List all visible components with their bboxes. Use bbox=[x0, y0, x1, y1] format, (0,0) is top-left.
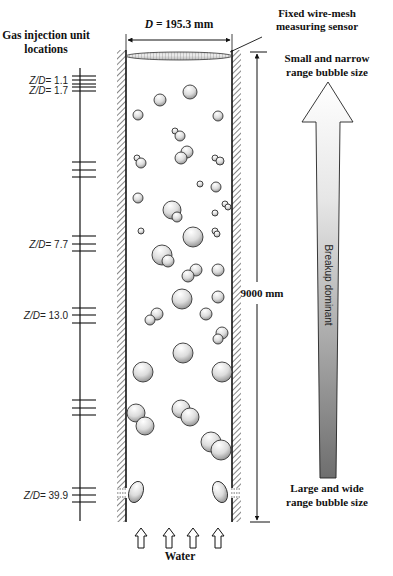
water-arrow-icon bbox=[187, 528, 199, 548]
bubble bbox=[212, 264, 224, 276]
top-label-line2: range bubble size bbox=[286, 66, 368, 78]
bubble bbox=[172, 289, 192, 309]
right-wall bbox=[232, 50, 241, 522]
water-label: Water bbox=[165, 550, 196, 562]
bubble bbox=[173, 343, 193, 363]
injection-ticks bbox=[72, 76, 96, 502]
sensor-callout-line bbox=[230, 37, 262, 52]
height-label: 9000 mm bbox=[240, 287, 283, 299]
zd-labels: Z/D= 1.1Z/D= 1.7Z/D= 7.7Z/D= 13.0Z/D= 39… bbox=[23, 75, 69, 501]
injected-bubble bbox=[126, 479, 147, 504]
water-arrow-icon bbox=[212, 528, 224, 548]
bubble bbox=[136, 417, 154, 435]
bubble bbox=[213, 111, 223, 121]
axis-title-line1: Gas injection unit bbox=[2, 29, 90, 42]
bubble bbox=[197, 181, 203, 187]
water-arrow-icon bbox=[163, 528, 175, 548]
bubble bbox=[182, 270, 194, 282]
bubble bbox=[145, 315, 155, 325]
bubble bbox=[200, 308, 212, 320]
diameter-label: D = 195.3 mm bbox=[144, 18, 214, 30]
right-injector-port bbox=[231, 488, 242, 498]
injector-bubbles bbox=[126, 479, 231, 504]
bubble bbox=[183, 85, 197, 99]
bubble bbox=[212, 210, 218, 216]
bubble bbox=[212, 291, 224, 303]
gas-injection-axis: Gas injection unit locations Z/D= 1.1Z/D… bbox=[2, 29, 96, 521]
bubble bbox=[175, 152, 187, 164]
diagram-canvas: Gas injection unit locations Z/D= 1.1Z/D… bbox=[0, 0, 393, 576]
bubble bbox=[154, 94, 166, 106]
zd-label: Z/D= 1.7 bbox=[28, 85, 68, 96]
sensor-label-line1: Fixed wire-mesh bbox=[278, 7, 356, 19]
bubble bbox=[136, 158, 146, 168]
zd-label: Z/D= 7.7 bbox=[28, 239, 68, 250]
bubble bbox=[175, 131, 185, 141]
sensor-label-line2: measuring sensor bbox=[276, 20, 358, 32]
left-injector-port bbox=[116, 488, 127, 498]
bubble bbox=[133, 110, 143, 120]
bubble bbox=[172, 212, 182, 222]
water-inflow-arrows bbox=[135, 528, 224, 548]
water-arrow-icon bbox=[135, 528, 147, 548]
axis-title-line2: locations bbox=[24, 43, 68, 55]
height-dimension: 9000 mm bbox=[240, 52, 283, 522]
bubble bbox=[212, 362, 232, 382]
bubble bbox=[133, 362, 153, 382]
bottom-label-line2: range bubble size bbox=[286, 496, 368, 508]
breakup-trend-arrow: Small and narrow range bubble size Break… bbox=[285, 52, 370, 508]
bubble bbox=[211, 440, 231, 460]
bubble bbox=[211, 182, 221, 192]
bubble bbox=[216, 157, 224, 165]
bubble bbox=[181, 408, 199, 426]
bubble bbox=[214, 231, 220, 237]
wire-mesh-sensor bbox=[126, 52, 232, 60]
bubble bbox=[133, 193, 143, 203]
zd-label: Z/D= 39.9 bbox=[23, 490, 69, 501]
bubble bbox=[162, 255, 174, 267]
zd-label: Z/D= 13.0 bbox=[23, 310, 69, 321]
bubble bbox=[213, 334, 223, 344]
left-wall bbox=[117, 50, 126, 522]
bubble bbox=[183, 227, 203, 247]
bubbles bbox=[127, 85, 232, 460]
top-label-line1: Small and narrow bbox=[285, 52, 370, 64]
bubble bbox=[225, 204, 231, 210]
bottom-label-line1: Large and wide bbox=[290, 482, 363, 494]
injected-bubble bbox=[210, 479, 231, 504]
breakup-dominant-label: Breakup dominant bbox=[323, 244, 334, 325]
bubble bbox=[138, 228, 144, 234]
